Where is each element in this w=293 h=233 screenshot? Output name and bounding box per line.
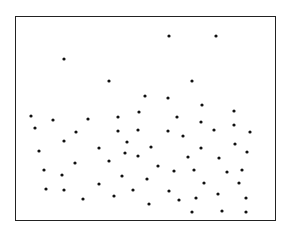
data-point (44, 187, 47, 190)
data-point (172, 169, 175, 172)
data-point (116, 115, 119, 118)
data-point (199, 120, 202, 123)
data-point (97, 146, 100, 149)
data-point (167, 34, 170, 37)
data-point (74, 130, 77, 133)
data-point (97, 182, 100, 185)
scatter-points (0, 0, 293, 233)
data-point (86, 117, 89, 120)
data-point (51, 118, 54, 121)
data-point (137, 110, 140, 113)
data-point (131, 188, 134, 191)
data-point (186, 155, 189, 158)
data-point (112, 194, 115, 197)
data-point (60, 173, 63, 176)
data-point (29, 114, 32, 117)
data-point (237, 181, 240, 184)
data-point (240, 168, 243, 171)
data-point (214, 34, 217, 37)
data-point (166, 96, 169, 99)
data-point (120, 174, 123, 177)
data-point (62, 139, 65, 142)
data-point (136, 154, 139, 157)
data-point (244, 196, 247, 199)
data-point (145, 177, 148, 180)
data-point (245, 150, 248, 153)
data-point (37, 149, 40, 152)
data-point (62, 188, 65, 191)
data-point (233, 142, 236, 145)
data-point (116, 129, 119, 132)
data-point (33, 126, 36, 129)
data-point (190, 210, 193, 213)
data-point (181, 134, 184, 137)
data-point (62, 57, 65, 60)
data-point (217, 156, 220, 159)
data-point (199, 146, 202, 149)
data-point (136, 128, 139, 131)
data-point (73, 161, 76, 164)
data-point (220, 209, 223, 212)
data-point (149, 145, 152, 148)
data-point (190, 79, 193, 82)
data-point (244, 210, 247, 213)
data-point (81, 197, 84, 200)
data-point (248, 130, 251, 133)
data-point (232, 109, 235, 112)
data-point (194, 196, 197, 199)
data-point (107, 79, 110, 82)
data-point (225, 170, 228, 173)
data-point (107, 159, 110, 162)
data-point (123, 151, 126, 154)
data-point (177, 198, 180, 201)
data-point (166, 129, 169, 132)
data-point (125, 140, 128, 143)
data-point (202, 181, 205, 184)
data-point (216, 192, 219, 195)
data-point (156, 164, 159, 167)
data-point (192, 168, 195, 171)
data-point (42, 168, 45, 171)
data-point (175, 115, 178, 118)
data-point (167, 189, 170, 192)
data-point (147, 202, 150, 205)
data-point (200, 103, 203, 106)
data-point (143, 94, 146, 97)
data-point (212, 128, 215, 131)
data-point (232, 123, 235, 126)
